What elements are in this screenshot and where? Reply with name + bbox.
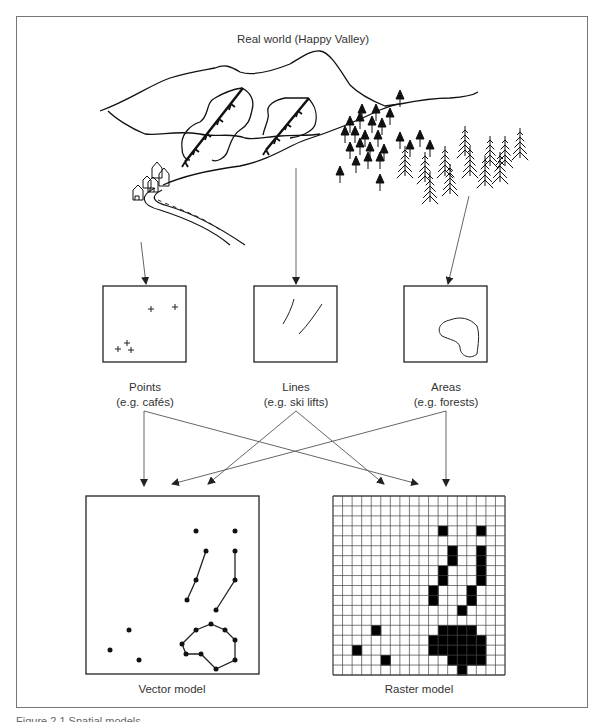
raster-filled-cell bbox=[371, 625, 381, 635]
raster-filled-cell bbox=[448, 645, 458, 655]
raster-filled-cell bbox=[476, 576, 486, 586]
raster-filled-cell bbox=[438, 576, 448, 586]
vector-model-features bbox=[108, 529, 238, 672]
raster-filled-cell bbox=[467, 625, 477, 635]
raster-filled-cell bbox=[467, 586, 477, 596]
connector-arrows-top bbox=[141, 168, 469, 284]
raster-filled-cell bbox=[457, 665, 467, 675]
raster-filled-cell bbox=[429, 595, 439, 605]
raster-filled-cell bbox=[438, 566, 448, 576]
points-title: Points bbox=[95, 380, 195, 395]
lines-example: (e.g. ski lifts) bbox=[246, 395, 346, 410]
raster-filled-cell bbox=[476, 645, 486, 655]
lines-box bbox=[254, 286, 337, 362]
raster-filled-cell bbox=[467, 655, 477, 665]
raster-filled-cell bbox=[448, 655, 458, 665]
raster-filled-cell bbox=[476, 635, 486, 645]
areas-title: Areas bbox=[396, 380, 496, 395]
raster-filled-cell bbox=[429, 635, 439, 645]
raster-model-label: Raster model bbox=[369, 682, 469, 697]
points-label: Points (e.g. cafés) bbox=[95, 380, 195, 410]
raster-filled-cell bbox=[429, 586, 439, 596]
forest-trees bbox=[336, 90, 528, 204]
raster-filled-cell bbox=[429, 645, 439, 655]
points-symbols bbox=[115, 304, 178, 353]
lines-title: Lines bbox=[246, 380, 346, 395]
raster-filled-cell bbox=[381, 655, 391, 665]
area-symbol bbox=[439, 318, 478, 357]
areas-label: Areas (e.g. forests) bbox=[396, 380, 496, 410]
raster-filled-cell bbox=[467, 645, 477, 655]
raster-filled-cell bbox=[476, 526, 486, 536]
raster-filled-cell bbox=[448, 556, 458, 566]
raster-filled-cell bbox=[438, 526, 448, 536]
figure-caption: Figure 2.1 Spatial models bbox=[16, 714, 141, 722]
raster-filled-cell bbox=[476, 566, 486, 576]
raster-filled-cell bbox=[476, 546, 486, 556]
diagram-canvas bbox=[0, 0, 606, 722]
raster-filled-cell bbox=[448, 546, 458, 556]
raster-filled-cell bbox=[448, 635, 458, 645]
raster-filled-cell bbox=[438, 635, 448, 645]
points-example: (e.g. cafés) bbox=[95, 395, 195, 410]
landscape-illustration bbox=[100, 51, 478, 245]
raster-filled-cell bbox=[448, 625, 458, 635]
points-box bbox=[103, 286, 186, 362]
vector-model-box bbox=[86, 496, 259, 674]
raster-filled-cell bbox=[457, 645, 467, 655]
raster-filled-cell bbox=[476, 655, 486, 665]
raster-filled-cell bbox=[476, 556, 486, 566]
raster-filled-cell bbox=[457, 635, 467, 645]
raster-filled-cell bbox=[457, 605, 467, 615]
connector-arrows-bottom bbox=[144, 411, 446, 486]
lines-label: Lines (e.g. ski lifts) bbox=[246, 380, 346, 410]
raster-filled-cell bbox=[457, 625, 467, 635]
raster-filled-cell bbox=[467, 635, 477, 645]
raster-filled-cell bbox=[438, 625, 448, 635]
raster-filled-cell bbox=[467, 595, 477, 605]
vector-model-label: Vector model bbox=[122, 682, 222, 697]
raster-model-grid bbox=[333, 496, 505, 676]
areas-example: (e.g. forests) bbox=[396, 395, 496, 410]
raster-filled-cell bbox=[457, 655, 467, 665]
lines-symbols bbox=[283, 299, 322, 334]
raster-filled-cell bbox=[438, 645, 448, 655]
raster-filled-cell bbox=[352, 645, 362, 655]
